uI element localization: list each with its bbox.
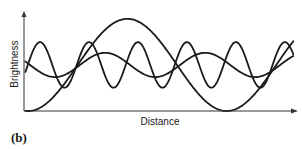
x-axis-label: Distance: [141, 116, 180, 127]
panel-label: (b): [11, 130, 27, 145]
x-axis-arrow-icon: [291, 109, 298, 114]
series-line-long-wavelength: [25, 19, 293, 111]
curves-group: [25, 19, 293, 111]
y-axis-label: Brightness: [9, 40, 20, 87]
brightness-distance-chart: Distance Brightness (b): [0, 0, 303, 149]
y-axis-arrow-icon: [22, 11, 27, 17]
series-line-medium-wavelength: [25, 53, 293, 77]
